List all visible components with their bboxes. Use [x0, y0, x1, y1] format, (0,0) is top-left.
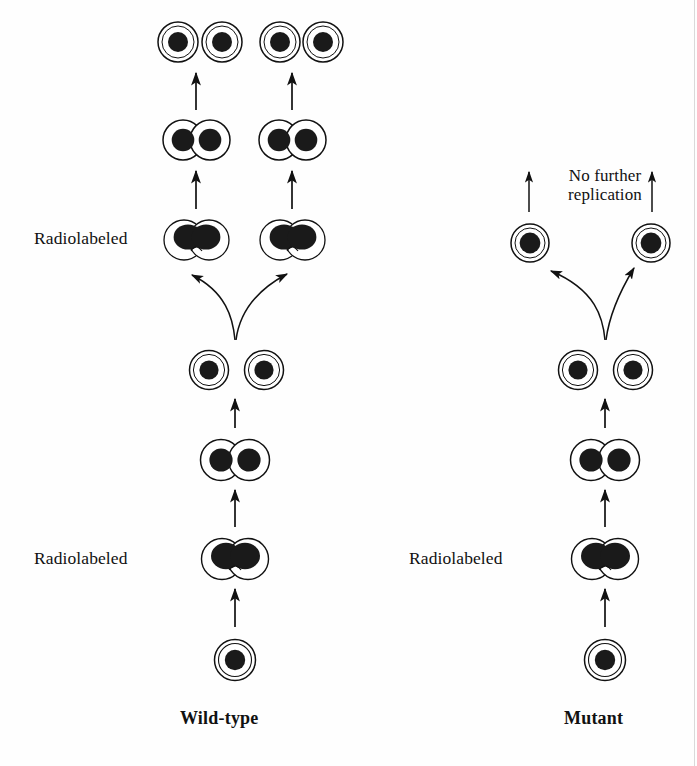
cell-wt-gen3-single-right — [245, 351, 284, 390]
cell-wt-gen6-single-3 — [260, 22, 300, 62]
replication-pedigree-diagram — [0, 0, 697, 766]
label-no-further-replication: No further replication — [541, 166, 669, 204]
label-condition-wild-type: Wild-type — [180, 708, 258, 729]
cell-wt-gen6-single-4 — [303, 22, 343, 62]
cell-wt-gen4-radiolabeled-dividing-right — [260, 220, 325, 260]
branch-arrow-wt-left — [192, 275, 235, 340]
cell-wt-gen1-radiolabeled-dividing — [202, 539, 269, 580]
cell-wt-gen2-dividing-pair — [201, 440, 270, 481]
cell-mut-gen0-single — [585, 640, 626, 681]
cell-wt-gen6-single-2 — [202, 22, 242, 62]
page-edge-rule — [694, 0, 695, 766]
cell-mut-gen3-single-left — [559, 351, 598, 390]
column-wild-type — [158, 22, 343, 681]
branch-arrow-mut-left — [551, 271, 605, 340]
label-condition-mutant: Mutant — [564, 708, 623, 729]
column-mutant — [511, 172, 670, 681]
label-radiolabeled-mutant-lower: Radiolabeled — [409, 548, 503, 569]
cell-wt-gen6-single-1 — [158, 22, 198, 62]
cell-wt-gen5-dividing-pair-right — [259, 120, 326, 160]
cell-mut-gen4-single-right — [632, 224, 670, 262]
label-radiolabeled-wildtype-lower: Radiolabeled — [34, 548, 128, 569]
cell-wt-gen3-single-left — [190, 351, 229, 390]
cell-mut-gen2-dividing-pair — [571, 440, 640, 481]
cell-mut-gen4-single-left — [511, 224, 549, 262]
cell-mut-gen1-radiolabeled-dividing — [572, 539, 639, 580]
cell-wt-gen5-dividing-pair-left — [163, 120, 230, 160]
label-radiolabeled-wildtype-upper: Radiolabeled — [34, 228, 128, 249]
cell-wt-gen4-radiolabeled-dividing-left — [164, 220, 229, 260]
figure-canvas: Radiolabeled Radiolabeled Radiolabeled N… — [0, 0, 697, 766]
cell-wt-gen0-single — [215, 640, 256, 681]
branch-arrow-wt-right — [236, 274, 287, 340]
cell-mut-gen3-single-right — [614, 351, 653, 390]
branch-arrow-mut-right — [606, 268, 634, 340]
